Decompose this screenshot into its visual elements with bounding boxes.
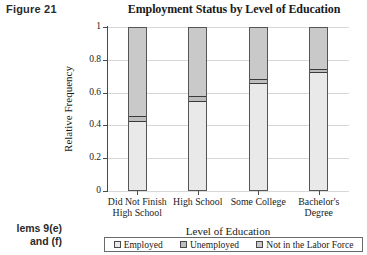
- y-axis-tick-label: 0.6: [89, 88, 101, 98]
- y-axis-title-wrap: Relative Frequency: [61, 27, 75, 191]
- bar-segment[interactable]: [189, 28, 206, 96]
- gridline: [107, 191, 349, 192]
- bar-segment[interactable]: [310, 28, 327, 69]
- x-axis-tick: [137, 191, 138, 195]
- stacked-bar[interactable]: [128, 27, 147, 191]
- y-axis-tick: [103, 93, 108, 94]
- legend-label: Not in the Labor Force: [266, 240, 353, 250]
- y-axis-tick-label: 0: [96, 186, 101, 196]
- legend-swatch-icon: [114, 241, 121, 248]
- legend-swatch-icon: [256, 241, 263, 248]
- plot-area: Relative Frequency 00.20.40.60.81: [107, 27, 349, 191]
- legend-swatch-icon: [180, 241, 187, 248]
- y-axis-tick: [103, 27, 108, 28]
- legend-item[interactable]: Not in the Labor Force: [256, 240, 353, 250]
- x-axis-title: Level of Education: [107, 225, 349, 237]
- bar-segment[interactable]: [189, 102, 206, 190]
- x-axis-tick: [258, 191, 259, 195]
- figure-label: Figure 21: [6, 3, 57, 15]
- legend-label: Unemployed: [190, 240, 239, 250]
- y-axis-tick-label: 0.8: [89, 55, 101, 65]
- legend-label: Employed: [124, 240, 163, 250]
- x-axis-tick: [319, 191, 320, 195]
- y-axis-tick-label: 0.2: [89, 153, 101, 163]
- y-axis-tick: [103, 191, 108, 192]
- x-axis-tick: [198, 191, 199, 195]
- bar-segment[interactable]: [250, 28, 267, 79]
- margin-note-line-2: and (f): [0, 235, 62, 248]
- x-axis-category-label-line: Degree: [276, 207, 362, 218]
- legend-item[interactable]: Employed: [114, 240, 163, 250]
- bar-segment[interactable]: [250, 84, 267, 190]
- stacked-bar[interactable]: [309, 27, 328, 191]
- chart-title: Employment Status by Level of Education: [103, 2, 365, 17]
- bar-segment[interactable]: [129, 122, 146, 190]
- y-axis-tick-label: 0.4: [89, 120, 101, 130]
- margin-note-line-1: lems 9(e): [0, 222, 62, 235]
- stacked-bar[interactable]: [188, 27, 207, 191]
- y-axis-tick: [103, 60, 108, 61]
- y-axis-title: Relative Frequency: [62, 66, 74, 152]
- y-axis-tick: [103, 158, 108, 159]
- x-axis-category-label: Bachelor'sDegree: [276, 196, 362, 218]
- x-axis-category-label-line: High School: [94, 207, 180, 218]
- legend-item[interactable]: Unemployed: [180, 240, 239, 250]
- chart-legend: EmployedUnemployedNot in the Labor Force: [104, 237, 363, 252]
- margin-note: lems 9(e) and (f): [0, 222, 62, 248]
- x-axis-category-label-line: Bachelor's: [276, 196, 362, 207]
- y-axis-tick: [103, 125, 108, 126]
- stacked-bar[interactable]: [249, 27, 268, 191]
- bar-segment[interactable]: [129, 28, 146, 116]
- y-axis-tick-label: 1: [96, 22, 101, 32]
- bar-segment[interactable]: [310, 73, 327, 190]
